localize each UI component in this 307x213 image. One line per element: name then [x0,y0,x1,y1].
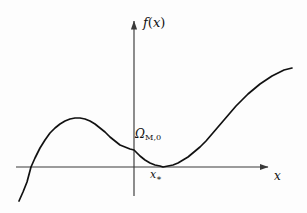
y-axis-label: f(x) [143,16,165,29]
y-axis-label-close-paren: ) [160,15,165,30]
x-axis-label: x [274,170,281,182]
omega-symbol: Ω [135,127,145,141]
function-plot-figure: f(x) x ΩM,0 x∗ [0,0,307,213]
y-intercept-label: ΩM,0 [135,128,161,141]
tangency-point-label: x∗ [150,169,162,182]
x-star-subscript: ∗ [156,173,162,183]
omega-subscript: M,0 [145,132,161,142]
x-axis-label-variable: x [274,169,281,183]
